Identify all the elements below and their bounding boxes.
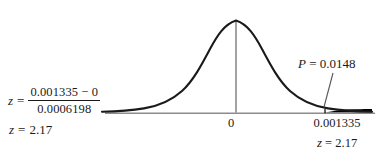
p-value: 0.0148 <box>320 56 356 71</box>
z-result-symbol: z <box>9 123 14 136</box>
right-z-value: 2.17 <box>335 136 357 150</box>
statistics-figure: z = 0.001335 − 0 0.0006198 z = 2.17 <box>0 0 381 168</box>
z-result-line: z = 2.17 <box>9 123 52 136</box>
axis-tick-label-right-zscore: z = 2.17 <box>299 136 375 150</box>
z-symbol: z <box>8 94 13 107</box>
z-score-calculation: z = 0.001335 − 0 0.0006198 z = 2.17 <box>8 86 100 136</box>
p-symbol: P <box>298 56 306 71</box>
right-z-equals: = <box>325 136 332 150</box>
axis-tick-label-center: 0 <box>228 117 234 130</box>
fraction-denominator: 0.0006198 <box>35 101 93 116</box>
axis-tick-label-right: 0.001335 <box>299 117 375 130</box>
fraction-numerator: 0.001335 − 0 <box>28 86 100 100</box>
fraction: 0.001335 − 0 0.0006198 <box>28 86 100 116</box>
z-formula-line: z = 0.001335 − 0 0.0006198 <box>8 86 100 116</box>
p-equals-sign: = <box>309 56 316 71</box>
z-result-value: 2.17 <box>29 123 52 136</box>
p-label-leader-line <box>324 73 333 107</box>
equals-sign: = <box>17 94 24 107</box>
right-z-symbol: z <box>317 135 322 150</box>
z-result-equals: = <box>18 123 25 136</box>
p-value-annotation: P = 0.0148 <box>298 57 356 70</box>
